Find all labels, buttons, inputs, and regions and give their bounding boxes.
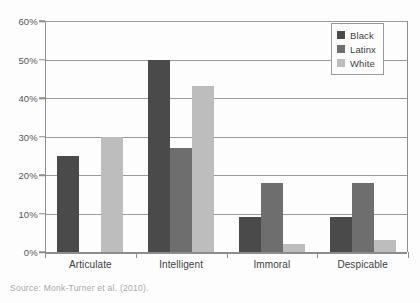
bar-chart-figure: 0%10%20%30%40%50%60% ArticulateIntellige…: [0, 0, 420, 303]
bar: [170, 148, 192, 252]
x-tick-mark: [317, 252, 318, 258]
legend-item[interactable]: Latinx: [337, 42, 376, 56]
bar: [192, 86, 214, 252]
x-tick-mark: [45, 252, 46, 258]
bar-group: [136, 21, 227, 252]
y-tick-label: 30%: [2, 131, 38, 142]
chart-legend: BlackLatinxWhite: [331, 23, 384, 75]
bar-group: [45, 21, 136, 252]
bar: [352, 183, 374, 252]
legend-item[interactable]: Black: [337, 28, 376, 42]
x-tick-mark: [227, 252, 228, 258]
legend-swatch-icon: [337, 45, 345, 53]
y-tick-label: 20%: [2, 170, 38, 181]
bar: [261, 183, 283, 252]
bar-group: [227, 21, 318, 252]
legend-label: Latinx: [350, 44, 376, 55]
bar: [374, 240, 396, 252]
x-category-label: Intelligent: [159, 259, 203, 270]
bar: [330, 217, 352, 252]
y-tick-label: 40%: [2, 93, 38, 104]
legend-item[interactable]: White: [337, 56, 376, 70]
bar: [57, 156, 79, 252]
legend-label: White: [350, 58, 375, 69]
x-tick-mark: [408, 252, 409, 258]
x-category-label: Despicable: [337, 259, 387, 270]
y-tick-label: 60%: [2, 16, 38, 27]
bar: [101, 137, 123, 252]
bar: [283, 244, 305, 252]
bar: [239, 217, 261, 252]
bar: [148, 60, 170, 253]
x-category-label: Articulate: [69, 259, 112, 270]
source-note: Source: Monk-Turner et al. (2010).: [10, 283, 149, 293]
x-category-label: Immoral: [253, 259, 290, 270]
legend-swatch-icon: [337, 59, 345, 67]
y-tick-label: 10%: [2, 208, 38, 219]
y-tick-label: 50%: [2, 54, 38, 65]
legend-swatch-icon: [337, 31, 345, 39]
y-tick-label: 0%: [2, 247, 38, 258]
legend-label: Black: [350, 30, 374, 41]
x-tick-mark: [136, 252, 137, 258]
